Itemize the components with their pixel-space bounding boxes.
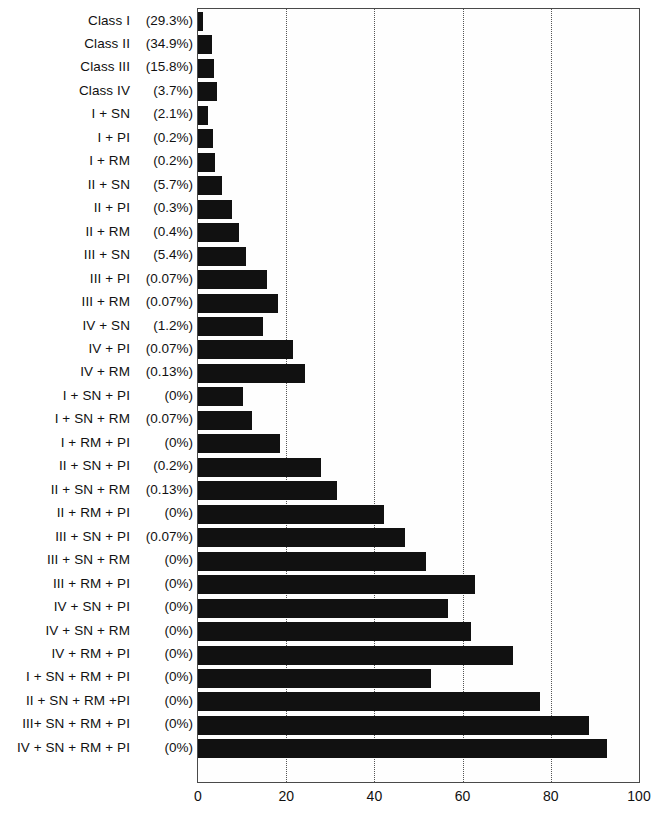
category-name: III+ SN + RM + PI <box>22 716 130 731</box>
bar <box>198 270 267 289</box>
x-tick-label: 60 <box>455 788 471 804</box>
category-name: IV + SN + PI <box>54 599 130 614</box>
category-percent: (0.07%) <box>137 529 193 544</box>
category-name: IV + SN + RM + PI <box>17 740 130 755</box>
bar <box>198 387 243 406</box>
bar <box>198 176 222 195</box>
bar <box>198 12 203 31</box>
bar <box>198 340 293 359</box>
row-label: II + SN + RM +PI(0%) <box>0 690 193 710</box>
bar <box>198 82 217 101</box>
category-percent: (1.2%) <box>137 318 193 333</box>
category-percent: (5.7%) <box>137 177 193 192</box>
category-percent: (0%) <box>137 435 193 450</box>
category-percent: (0%) <box>137 388 193 403</box>
bar <box>198 646 513 665</box>
bar <box>198 35 212 54</box>
x-tick-label: 20 <box>278 788 294 804</box>
bar <box>198 200 232 219</box>
category-percent: (3.7%) <box>137 83 193 98</box>
category-percent: (0%) <box>137 505 193 520</box>
bar <box>198 481 337 500</box>
category-percent: (0%) <box>137 646 193 661</box>
bar <box>198 692 540 711</box>
row-label: III + SN(5.4%) <box>0 245 193 265</box>
x-tick-label: 100 <box>627 788 650 804</box>
category-name: II + SN + PI <box>59 458 130 473</box>
category-percent: (34.9%) <box>137 36 193 51</box>
category-name: I + SN + RM <box>55 411 130 426</box>
category-percent: (0.2%) <box>137 130 193 145</box>
category-percent: (0%) <box>137 716 193 731</box>
row-label: III + RM(0.07%) <box>0 292 193 312</box>
bar <box>198 716 589 735</box>
category-label-column: Class I(29.3%)Class II(34.9%)Class III(1… <box>0 8 196 783</box>
plot-area <box>197 8 640 783</box>
category-name: Class III <box>80 59 130 74</box>
category-percent: (0%) <box>137 669 193 684</box>
category-percent: (0%) <box>137 623 193 638</box>
row-label: II + SN + PI(0.2%) <box>0 456 193 476</box>
bar <box>198 364 305 383</box>
category-name: I + PI <box>98 130 131 145</box>
row-label: II + PI(0.3%) <box>0 198 193 218</box>
row-label: III+ SN + RM + PI(0%) <box>0 714 193 734</box>
row-label: I + RM + PI(0%) <box>0 432 193 452</box>
category-name: IV + SN <box>82 318 130 333</box>
bar <box>198 411 252 430</box>
category-name: IV + PI <box>88 341 130 356</box>
category-name: IV + RM + PI <box>52 646 130 661</box>
row-label: I + SN(2.1%) <box>0 104 193 124</box>
bar <box>198 153 215 172</box>
row-label: IV + SN(1.2%) <box>0 315 193 335</box>
category-name: I + SN + PI <box>63 388 130 403</box>
category-name: Class IV <box>79 83 130 98</box>
bar <box>198 317 263 336</box>
category-name: III + SN + PI <box>55 529 130 544</box>
category-name: I + RM <box>89 153 130 168</box>
category-percent: (0.4%) <box>137 224 193 239</box>
category-percent: (5.4%) <box>137 247 193 262</box>
category-percent: (0.3%) <box>137 200 193 215</box>
row-label: III + PI(0.07%) <box>0 268 193 288</box>
bar <box>198 528 405 547</box>
category-percent: (0.07%) <box>137 341 193 356</box>
category-name: Class I <box>88 13 130 28</box>
bar <box>198 552 426 571</box>
horizontal-bar-chart: Class I(29.3%)Class II(34.9%)Class III(1… <box>0 0 671 838</box>
row-label: I + SN + RM + PI(0%) <box>0 667 193 687</box>
row-label: I + PI(0.2%) <box>0 127 193 147</box>
category-percent: (0%) <box>137 693 193 708</box>
bar <box>198 129 213 148</box>
category-name: Class II <box>84 36 130 51</box>
category-percent: (0.07%) <box>137 271 193 286</box>
gridline-x-80 <box>551 9 553 782</box>
bar <box>198 599 448 618</box>
category-name: II + RM <box>85 224 130 239</box>
category-percent: (2.1%) <box>137 106 193 121</box>
category-name: II + SN + RM +PI <box>26 693 130 708</box>
category-name: III + RM + PI <box>53 576 130 591</box>
x-tick-label: 80 <box>543 788 559 804</box>
row-label: Class III(15.8%) <box>0 57 193 77</box>
bar <box>198 59 214 78</box>
category-name: II + RM + PI <box>57 505 130 520</box>
bar <box>198 294 278 313</box>
row-label: II + RM(0.4%) <box>0 221 193 241</box>
category-percent: (0%) <box>137 740 193 755</box>
bar <box>198 434 280 453</box>
row-label: II + SN(5.7%) <box>0 174 193 194</box>
category-percent: (0%) <box>137 576 193 591</box>
row-label: II + SN + RM(0.13%) <box>0 479 193 499</box>
bar <box>198 247 246 266</box>
row-label: I + SN + RM(0.07%) <box>0 409 193 429</box>
category-percent: (29.3%) <box>137 13 193 28</box>
row-label: Class II(34.9%) <box>0 33 193 53</box>
bar <box>198 739 607 758</box>
row-label: IV + SN + RM(0%) <box>0 620 193 640</box>
category-percent: (0.07%) <box>137 294 193 309</box>
category-percent: (0%) <box>137 552 193 567</box>
row-label: III + RM + PI(0%) <box>0 573 193 593</box>
gridline-x-60 <box>463 9 465 782</box>
category-name: IV + SN + RM <box>46 623 130 638</box>
